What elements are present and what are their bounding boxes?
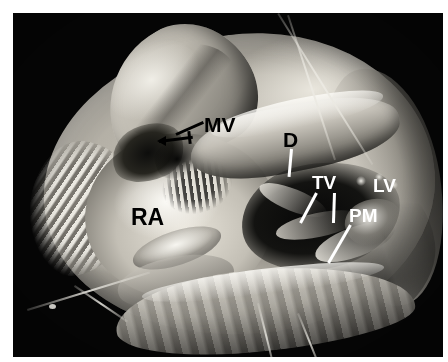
myocardial-free-wall [112,254,419,357]
suture-knot-highlight [49,304,56,309]
tv-leader-line-a [299,192,318,223]
annotation-label-ra: RA [131,206,164,229]
mv-arrow-tail [187,131,191,144]
pectinate-muscle-comb [155,150,239,222]
tv-leader-line-b [332,193,336,223]
pm-leader-line [327,224,352,264]
mv-leader-line [175,121,204,136]
d-leader-line [288,149,293,177]
annotation-label-lv: LV [373,176,396,195]
figure-root: MV D TV LV PM RA [0,0,448,362]
right-atrium-fold-lower [113,245,238,316]
photograph-black-field: MV D TV LV PM RA [13,13,443,357]
reflected-atrial-flap [78,13,277,191]
annotation-label-d: D [283,129,298,150]
suture-thread-bottom-a [257,303,276,357]
suture-thread-bottom-b [297,313,322,357]
annotation-label-pm: PM [349,206,378,225]
suture-thread-lower-left [27,272,150,311]
right-atrium-endocardial-surface [78,125,282,309]
ventricular-cavity [234,151,409,281]
photograph-content: MV D TV LV PM RA [13,13,443,357]
annotation-label-tv: TV [312,173,336,192]
cut-atrial-wall-ridges [22,136,140,282]
mv-arrow-head-icon [157,136,166,146]
atrioventricular-groove-shadow [103,112,193,193]
myocardial-free-wall-highlight [140,254,385,310]
annotation-label-mv: MV [204,114,236,135]
suture-thread-bottom-left [74,285,128,322]
